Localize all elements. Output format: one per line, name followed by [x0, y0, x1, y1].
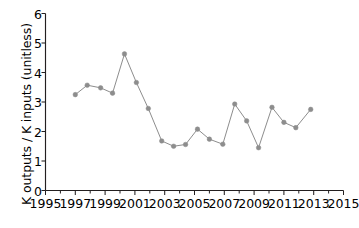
x-tick-label-2013: 2013 — [298, 196, 330, 211]
axes-group — [46, 14, 344, 191]
x-tick-label-2007: 2007 — [208, 196, 240, 211]
x-tick-label-1997: 1997 — [59, 196, 91, 211]
data-point-marker — [256, 145, 261, 150]
x-tick-label-1999: 1999 — [89, 196, 121, 211]
data-point-marker — [134, 80, 139, 85]
data-point-marker — [195, 127, 200, 132]
data-point-marker — [122, 52, 127, 57]
data-point-marker — [294, 125, 299, 130]
y-tick-marks — [42, 14, 46, 191]
data-point-marker — [207, 137, 212, 142]
data-point-marker — [85, 83, 90, 88]
x-tick-label-1995: 1995 — [30, 196, 62, 211]
data-point-marker — [159, 139, 164, 144]
data-series-line — [75, 54, 310, 148]
data-point-marker — [171, 144, 176, 149]
data-point-marker — [221, 142, 226, 147]
x-tick-label-2001: 2001 — [119, 196, 151, 211]
data-point-marker — [308, 107, 313, 112]
x-tick-marks — [46, 191, 344, 196]
x-tick-label-2011: 2011 — [268, 196, 300, 211]
x-tick-label-2005: 2005 — [179, 196, 211, 211]
data-point-marker — [98, 86, 103, 91]
data-point-marker — [232, 102, 237, 107]
x-tick-label-2003: 2003 — [149, 196, 181, 211]
data-point-marker — [110, 91, 115, 96]
data-point-marker — [73, 92, 78, 97]
data-point-marker — [183, 142, 188, 147]
x-tick-label-2015: 2015 — [328, 196, 359, 211]
x-tick-label-2009: 2009 — [238, 196, 270, 211]
data-point-marker — [270, 105, 275, 110]
data-point-marker — [282, 120, 287, 125]
data-point-marker — [244, 119, 249, 124]
data-point-marker — [146, 106, 151, 111]
